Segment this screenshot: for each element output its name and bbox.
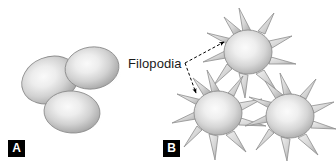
panel-b-tag-label: B	[163, 140, 180, 157]
cell-b-top-body	[224, 30, 272, 74]
filopodia-leader-lines	[185, 42, 224, 93]
figure-container: Filopodia A B	[0, 0, 336, 165]
panel-a-cells	[14, 43, 122, 134]
filopodia-leader-lower	[185, 63, 196, 93]
cell-b-bottom-left-body	[194, 91, 242, 135]
cell-b-bottom-left	[172, 70, 266, 160]
cell-b-bottom-right-body	[266, 94, 314, 138]
filopodia-leader-upper	[185, 42, 224, 63]
panel-a-tag-label: A	[8, 140, 25, 157]
panel-b-tag: B	[163, 140, 180, 157]
panel-a-tag: A	[8, 140, 25, 157]
filopodia-annotation-label: Filopodia	[128, 56, 182, 71]
cell-b-bottom-right	[245, 73, 336, 161]
